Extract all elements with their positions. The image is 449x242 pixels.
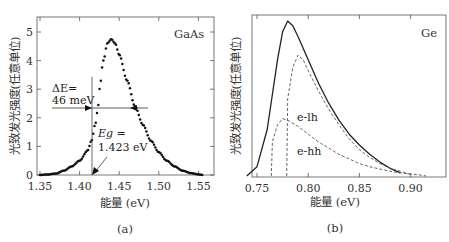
data-point (152, 141, 155, 144)
data-point (102, 59, 105, 62)
y-tick-label: 3 (26, 83, 33, 96)
e-hh-label: e-hh (297, 145, 321, 158)
data-point (97, 104, 100, 107)
panel-b-curves (247, 21, 426, 176)
data-point (93, 125, 96, 128)
x-tick-label: 1.45 (107, 180, 132, 193)
data-point (131, 99, 134, 102)
panel-a-y-axis-label: 光致发光强度(任意单位) (8, 37, 22, 156)
data-point (100, 79, 103, 82)
data-point (145, 130, 148, 133)
curve-e-hh (271, 119, 426, 176)
data-point (126, 79, 129, 82)
data-point (103, 55, 106, 58)
panel-a-data-points (39, 38, 204, 176)
data-point (101, 66, 104, 69)
y-tick-label: 2 (26, 112, 33, 125)
data-point (138, 114, 141, 117)
data-point (144, 127, 147, 129)
data-point (121, 63, 124, 65)
data-point (87, 149, 90, 152)
panel-b-material-label: Ge (421, 26, 437, 40)
eg-value: 1.423 eV (98, 141, 148, 154)
y-tick-label: 4 (26, 55, 33, 68)
curve-total (247, 21, 401, 176)
e-lh-label: e-lh (297, 111, 318, 124)
eg-label: Eg = (97, 127, 126, 140)
data-point (146, 134, 149, 137)
data-point (153, 143, 156, 146)
data-point (116, 48, 119, 51)
data-point (115, 43, 118, 46)
data-point (143, 124, 146, 127)
x-tick-label: 1.50 (147, 180, 172, 193)
panel-a-caption: (a) (117, 222, 133, 236)
x-tick-label: 0.80 (296, 182, 321, 195)
x-tick-label: 1.55 (186, 180, 211, 193)
data-point (129, 87, 132, 90)
panel-b-caption: (b) (327, 221, 343, 235)
y-tick-label: 5 (26, 26, 33, 39)
panel-b: 0.750.800.850.90 Ge e-lh e-hh 能量 (eV) (b… (229, 15, 446, 235)
data-point (127, 82, 130, 85)
data-point (201, 174, 204, 177)
x-tick-label: 1.40 (67, 180, 92, 193)
data-point (124, 74, 127, 77)
data-point (130, 93, 133, 96)
y-tick-label: 1 (26, 140, 33, 153)
delta-e-value: 46 meV (52, 94, 95, 107)
figure: 1.351.401.451.501.55 012345 ΔE= 46 meV E… (0, 0, 449, 242)
x-tick-label: 0.90 (398, 182, 423, 195)
y-tick-label: 0 (26, 169, 33, 182)
x-tick-label: 0.85 (347, 182, 372, 195)
fwhm-right-arrow-head (130, 105, 137, 111)
data-point (105, 47, 108, 50)
data-point (98, 88, 101, 91)
data-point (120, 57, 123, 60)
data-point (139, 118, 142, 121)
panel-a: 1.351.401.451.501.55 012345 ΔE= 46 meV E… (8, 17, 214, 236)
data-point (88, 145, 91, 148)
data-point (119, 54, 122, 57)
data-point (96, 112, 99, 115)
panel-a-material-label: GaAs (174, 27, 204, 41)
panel-b-y-axis-label: 光致发光强度(任意单位) (229, 37, 243, 156)
data-point (154, 146, 157, 149)
panel-a-x-axis-label: 能量 (eV) (100, 196, 150, 210)
data-point (122, 69, 125, 72)
data-point (81, 158, 84, 161)
panel-b-x-axis-label: 能量 (eV) (310, 195, 360, 209)
x-tick-label: 0.75 (245, 182, 270, 195)
data-point (83, 153, 86, 156)
data-point (82, 155, 85, 158)
data-point (95, 122, 98, 125)
